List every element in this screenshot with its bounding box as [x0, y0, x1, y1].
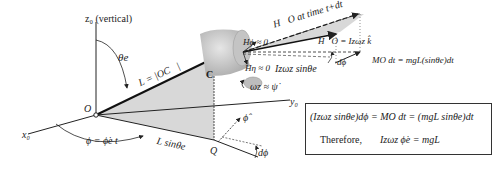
h-o-label: H⃗O = Izωz k̂: [318, 37, 371, 46]
equation-line-2: Therefore,Izωz ϕ̇e = mgL: [320, 134, 440, 145]
result-equation: Izωz ϕ̇e = mgL: [380, 134, 440, 145]
theta-e-label: θe: [118, 52, 128, 63]
dphi-top-label: dϕ: [337, 58, 346, 67]
q-label: Q: [210, 146, 217, 156]
phi-hat-label: ϕ̂: [243, 113, 248, 123]
phi-eq-label: ϕ = ϕ̇e t: [86, 136, 118, 146]
therefore-label: Therefore,: [320, 134, 362, 145]
z-axis-label: z₀ (vertical): [85, 14, 132, 24]
o-label: O: [84, 104, 91, 114]
omega-label: ωz ≈ ψ̇: [250, 82, 278, 92]
x-axis-label: x₀: [22, 130, 30, 140]
c-label: C: [206, 70, 213, 80]
y-axis-label: y₀: [290, 97, 298, 107]
x-axis: [28, 115, 96, 134]
equation-line-1: (Izωz sinθe)dϕ = MO dt = (mgL sinθe)dt: [310, 111, 473, 122]
mo-dt-label: MO dt = mgL(sinθe)dt: [372, 56, 454, 65]
h-phi-label: Hϕ ≈ 0: [243, 38, 268, 47]
iz-sin-label: Izωz sinθe: [275, 64, 317, 74]
theta-arc: [96, 40, 127, 88]
h-eta-label: Hη ≈ 0: [245, 64, 270, 73]
equation-box: (Izωz sinθe)dϕ = MO dt = (mgL sinθe)dt T…: [305, 103, 492, 155]
origin-point: [94, 113, 98, 117]
dphi-bottom-label: dϕ: [258, 148, 268, 158]
